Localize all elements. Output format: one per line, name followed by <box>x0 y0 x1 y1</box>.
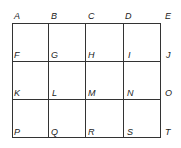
point-label-p: P <box>14 127 20 137</box>
point-label-h: H <box>88 50 95 60</box>
point-label-i: I <box>128 50 131 60</box>
point-label-e: E <box>165 11 171 21</box>
grid-hline-2 <box>12 99 161 100</box>
point-label-k: K <box>14 88 20 98</box>
point-label-m: M <box>88 88 96 98</box>
point-label-j: J <box>166 50 171 60</box>
grid-hline-1 <box>12 61 161 62</box>
grid-vline-3 <box>123 23 124 138</box>
point-label-q: Q <box>51 127 58 137</box>
point-label-o: O <box>165 88 172 98</box>
point-label-r: R <box>88 127 95 137</box>
point-label-a: A <box>14 11 20 21</box>
point-label-t: T <box>165 127 171 137</box>
point-label-s: S <box>127 127 133 137</box>
point-label-c: C <box>88 11 95 21</box>
point-label-l: L <box>52 88 57 98</box>
point-label-n: N <box>127 88 134 98</box>
grid-vline-2 <box>85 23 86 138</box>
point-label-d: D <box>125 11 132 21</box>
grid-vline-1 <box>48 23 49 138</box>
grid-frame <box>12 23 161 138</box>
point-label-b: B <box>51 11 57 21</box>
point-label-f: F <box>14 50 20 60</box>
point-label-g: G <box>51 50 58 60</box>
